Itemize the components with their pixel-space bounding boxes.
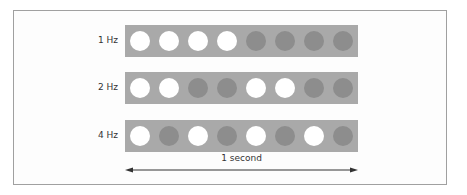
light-off-dot [275, 31, 295, 51]
light-on-dot [159, 78, 179, 98]
light-off-dot [275, 126, 295, 146]
light-on-dot [217, 31, 237, 51]
row-label: 4 Hz [58, 130, 118, 140]
double-arrow-icon [125, 163, 358, 177]
light-on-dot [304, 126, 324, 146]
light-off-dot [217, 126, 237, 146]
pulse-bar [125, 25, 358, 57]
light-on-dot [188, 31, 208, 51]
light-off-dot [188, 78, 208, 98]
light-on-dot [188, 126, 208, 146]
light-off-dot [159, 126, 179, 146]
pulse-bar [125, 120, 358, 152]
row-label: 2 Hz [58, 82, 118, 92]
light-off-dot [333, 126, 353, 146]
light-off-dot [333, 31, 353, 51]
light-off-dot [217, 78, 237, 98]
time-span-label: 1 second [125, 153, 358, 163]
light-on-dot [159, 31, 179, 51]
light-on-dot [130, 31, 150, 51]
light-off-dot [304, 78, 324, 98]
light-off-dot [304, 31, 324, 51]
row-label: 1 Hz [58, 35, 118, 45]
light-on-dot [275, 78, 295, 98]
light-on-dot [246, 78, 266, 98]
light-on-dot [130, 126, 150, 146]
light-on-dot [130, 78, 150, 98]
pulse-bar [125, 72, 358, 104]
light-off-dot [246, 31, 266, 51]
light-off-dot [333, 78, 353, 98]
light-on-dot [246, 126, 266, 146]
